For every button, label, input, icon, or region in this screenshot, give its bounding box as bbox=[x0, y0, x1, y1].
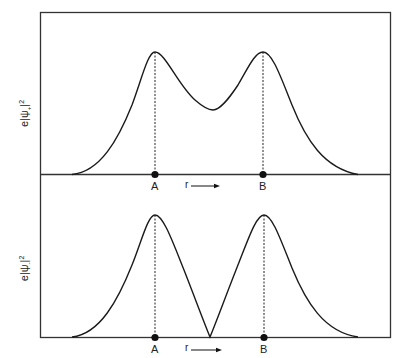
bottom-ylabel-sup: 2 bbox=[18, 256, 25, 260]
bottom-panel-ylabel: e|ψ-|2 bbox=[18, 245, 33, 291]
antibonding-density-curve bbox=[72, 215, 358, 337]
top-label-b: B bbox=[259, 180, 266, 192]
top-ylabel-prefix: e|ψ bbox=[18, 110, 30, 127]
top-panel-ylabel: e|ψ+|2 bbox=[18, 90, 33, 136]
bottom-ylabel-prefix: e|ψ bbox=[18, 264, 30, 281]
bottom-ylabel-suffix: | bbox=[18, 260, 30, 263]
bottom-nucleus-a-dot bbox=[151, 334, 158, 341]
top-r-arrowhead-icon bbox=[214, 184, 220, 188]
bottom-r-label: r bbox=[185, 342, 188, 353]
bottom-label-a: A bbox=[151, 343, 158, 355]
bottom-nucleus-b-dot bbox=[260, 334, 267, 341]
bottom-label-b: B bbox=[260, 343, 267, 355]
top-ylabel-sup: 2 bbox=[18, 100, 25, 104]
top-nucleus-b-dot bbox=[259, 171, 266, 178]
top-ylabel-suffix: | bbox=[18, 104, 30, 107]
top-r-label: r bbox=[185, 179, 188, 190]
bottom-r-arrowhead-icon bbox=[216, 348, 222, 352]
bottom-ylabel-sub: - bbox=[26, 262, 32, 264]
orbital-density-figure bbox=[0, 0, 401, 358]
bonding-density-curve bbox=[72, 52, 358, 175]
top-ylabel-sub: + bbox=[26, 107, 32, 111]
top-nucleus-a-dot bbox=[151, 171, 158, 178]
top-label-a: A bbox=[151, 180, 158, 192]
